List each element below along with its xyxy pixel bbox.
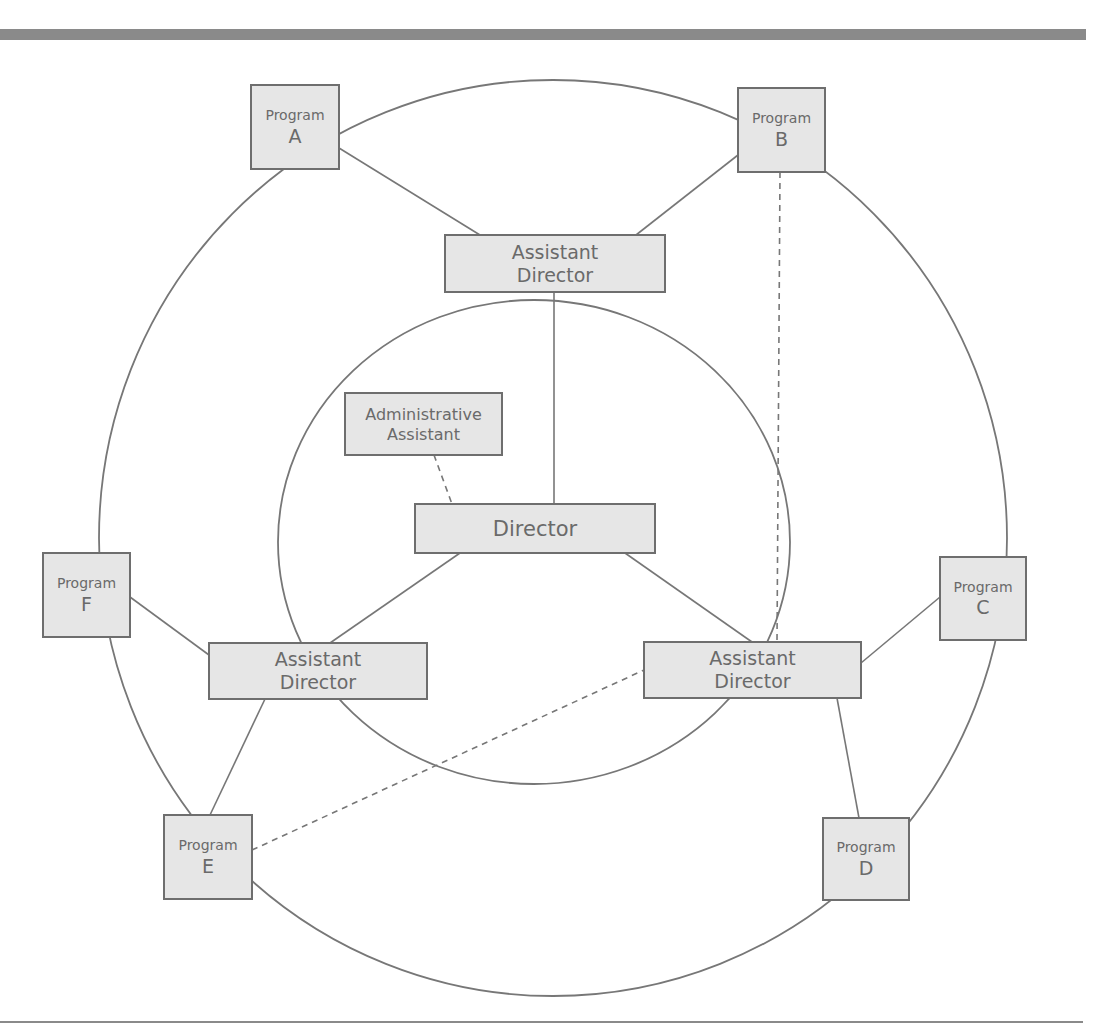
node-label-line1: Program <box>953 579 1012 595</box>
node-label-line2: F <box>81 593 92 615</box>
node-program-c: ProgramC <box>940 557 1026 640</box>
nodes-layer: ProgramAProgramBProgramCProgramDProgramE… <box>43 85 1026 900</box>
node-label-line1: Administrative <box>365 405 481 424</box>
node-label-line1: Program <box>752 110 811 126</box>
edge-program_f-asst_dir_left <box>130 597 209 655</box>
edge-director-asst_dir_left <box>330 553 460 643</box>
edge-asst_dir_right-program_d <box>837 698 859 818</box>
edge-program_c-asst_dir_right <box>861 597 940 663</box>
edge-program_a-asst_dir_top <box>339 148 480 235</box>
edge-asst_dir_left-program_e <box>210 699 265 815</box>
node-label-line1: Assistant <box>512 241 599 263</box>
node-label-line1: Program <box>836 839 895 855</box>
node-asst-dir-top: AssistantDirector <box>445 235 665 292</box>
node-label-line2: D <box>859 857 874 879</box>
node-program-d: ProgramD <box>823 818 909 900</box>
node-label-line1: Program <box>178 837 237 853</box>
node-admin-assistant: AdministrativeAssistant <box>345 393 502 455</box>
org-diagram: ProgramAProgramBProgramCProgramDProgramE… <box>0 0 1099 1035</box>
node-label-line1: Program <box>57 575 116 591</box>
node-program-a: ProgramA <box>251 85 339 169</box>
node-label-line2: C <box>976 596 989 618</box>
node-label-line2: Director <box>714 670 791 692</box>
node-program-f: ProgramF <box>43 553 130 637</box>
node-label-line1: Assistant <box>275 648 362 670</box>
node-label-line2: B <box>775 128 788 150</box>
node-asst-dir-right: AssistantDirector <box>644 642 861 698</box>
node-label-line2: Assistant <box>387 425 460 444</box>
node-program-e: ProgramE <box>164 815 252 899</box>
node-asst-dir-left: AssistantDirector <box>209 643 427 699</box>
node-program-b: ProgramB <box>738 88 825 172</box>
node-director: Director <box>415 504 655 553</box>
node-label-line2: Director <box>280 671 357 693</box>
node-label-line2: Director <box>517 264 594 286</box>
node-label-line2: A <box>289 125 302 147</box>
edge-director-asst_dir_right <box>625 553 752 642</box>
edge-program_b-asst_dir_right <box>777 172 780 642</box>
node-label-line1: Assistant <box>709 647 796 669</box>
edge-program_b-asst_dir_top <box>636 155 738 235</box>
node-label-line2: E <box>202 855 214 877</box>
node-label-line1: Program <box>265 107 324 123</box>
node-label: Director <box>493 517 578 541</box>
edge-admin_assistant-director <box>434 455 452 504</box>
